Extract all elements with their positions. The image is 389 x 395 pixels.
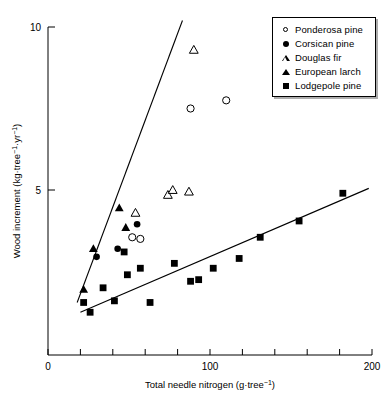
data-point <box>89 244 98 252</box>
legend-items-list: Ponderosa pineCorsican pineDouglas firEu… <box>280 23 375 93</box>
y-axis-title: Wood increment (kg·tree−1·yr−1) <box>11 124 22 259</box>
chart-legend: Ponderosa pineCorsican pineDouglas firEu… <box>272 17 376 97</box>
data-point <box>79 285 88 293</box>
data-point <box>185 187 194 195</box>
legend-item-corsican-pine[interactable]: Corsican pine <box>280 37 375 51</box>
data-point <box>121 223 130 231</box>
open-circle-glyph <box>283 27 288 32</box>
data-point <box>111 297 118 304</box>
data-point <box>137 265 144 272</box>
legend-item-ponderosa-pine[interactable]: Ponderosa pine <box>280 23 375 37</box>
legend-item-douglas-fir[interactable]: Douglas fir <box>280 51 375 65</box>
conifer-steep-fit <box>77 20 182 302</box>
data-point <box>121 249 128 256</box>
data-point <box>147 299 154 306</box>
x-axis-ticks <box>48 349 372 355</box>
series-ponderosa-pine <box>129 97 230 243</box>
y-axis-tick-labels: 510 <box>30 22 42 196</box>
data-point <box>171 260 178 267</box>
y-tick-label: 5 <box>35 185 41 196</box>
scatter-chart-figure: 0100200 510 Total needle nitrogen (g·tre… <box>0 0 389 395</box>
filled-square-icon <box>280 80 292 92</box>
data-point <box>115 204 124 212</box>
legend-item-lodgepole-pine[interactable]: Lodgepole pine <box>280 79 375 93</box>
x-tick-label: 100 <box>202 361 219 372</box>
x-axis-tick-labels: 0100200 <box>45 361 381 372</box>
data-point <box>210 265 217 272</box>
data-point <box>296 218 303 225</box>
data-point <box>187 278 194 285</box>
filled-triangle-icon <box>280 66 292 78</box>
legend-item-european-larch[interactable]: European larch <box>280 65 375 79</box>
data-point <box>257 234 264 241</box>
x-tick-label: 200 <box>364 361 381 372</box>
data-point <box>134 221 141 228</box>
open-triangle-glyph <box>282 55 290 61</box>
filled-square-glyph <box>283 83 289 89</box>
legend-item-label: Corsican pine <box>295 38 354 50</box>
data-point <box>187 105 194 112</box>
data-point <box>223 97 230 104</box>
filled-triangle-glyph <box>282 69 290 75</box>
data-point <box>236 255 243 262</box>
data-point <box>129 234 136 241</box>
data-point <box>131 208 140 216</box>
data-point <box>339 190 346 197</box>
x-tick-label: 0 <box>45 361 51 372</box>
series-european-larch <box>79 204 130 293</box>
y-axis-ticks <box>48 27 55 190</box>
filled-circle-icon <box>280 38 292 50</box>
data-point <box>137 235 144 242</box>
data-point <box>124 271 131 278</box>
data-point <box>80 299 87 306</box>
x-axis-title: Total needle nitrogen (g·tree−1) <box>145 379 275 390</box>
data-point <box>195 276 202 283</box>
data-point <box>114 245 121 252</box>
legend-item-label: Ponderosa pine <box>295 24 363 36</box>
legend-item-label: Douglas fir <box>295 52 342 64</box>
data-point <box>100 284 107 291</box>
data-point <box>87 309 94 316</box>
data-point <box>189 45 198 53</box>
open-circle-icon <box>280 24 292 36</box>
y-tick-label: 10 <box>30 22 42 33</box>
legend-item-label: European larch <box>295 66 361 78</box>
open-triangle-icon <box>280 52 292 64</box>
filled-circle-glyph <box>283 41 289 47</box>
data-point <box>93 254 100 261</box>
legend-item-label: Lodgepole pine <box>295 80 361 92</box>
data-point <box>168 186 177 194</box>
